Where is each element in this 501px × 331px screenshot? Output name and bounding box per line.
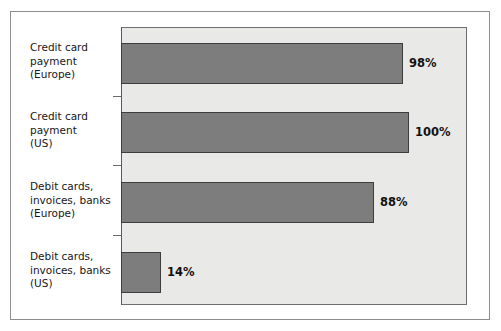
bar-value-credit-card-europe: 98% — [409, 43, 437, 84]
axis-tick-1 — [113, 96, 121, 97]
axis-tick-2 — [113, 165, 121, 166]
bar-debit-cards-europe[interactable] — [121, 182, 374, 223]
bar-value-debit-cards-europe: 88% — [380, 182, 408, 223]
bar-debit-cards-us[interactable] — [121, 252, 161, 293]
category-label-debit-cards-us: Debit cards, invoices, banks (US) — [30, 250, 116, 291]
bar-value-credit-card-us: 100% — [415, 112, 451, 153]
bar-value-debit-cards-us: 14% — [167, 252, 195, 293]
axis-tick-3 — [113, 235, 121, 236]
bar-credit-card-us[interactable] — [121, 112, 409, 153]
bar-credit-card-europe[interactable] — [121, 43, 403, 84]
chart-figure: Credit card payment (Europe) 98% Credit … — [0, 0, 501, 331]
category-label-credit-card-us: Credit card payment (US) — [30, 110, 116, 151]
category-label-credit-card-europe: Credit card payment (Europe) — [30, 41, 116, 82]
category-label-debit-cards-europe: Debit cards, invoices, banks (Europe) — [30, 180, 116, 221]
